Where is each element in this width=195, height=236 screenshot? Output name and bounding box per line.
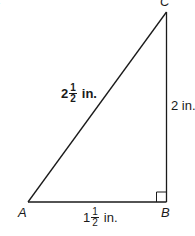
vertical-side-length-label: 2 in.: [171, 99, 195, 112]
horizontal-fraction: 1 2: [91, 207, 99, 228]
right-triangle-figure: [0, 0, 195, 236]
hypotenuse-unit: in.: [82, 87, 97, 100]
vertex-label-c: C: [160, 0, 169, 8]
vertex-label-a: A: [18, 206, 27, 219]
hypotenuse-fraction: 1 2: [69, 83, 77, 104]
hypotenuse-whole: 2: [61, 87, 68, 100]
side-ac-hypotenuse: [28, 12, 167, 202]
hypotenuse-length-label: 2 1 2 in.: [61, 83, 97, 104]
vertex-label-b: B: [161, 206, 170, 219]
horizontal-whole: 1: [83, 211, 90, 224]
right-angle-marker: [157, 192, 167, 202]
horizontal-denominator: 2: [91, 218, 99, 228]
hypotenuse-denominator: 2: [69, 94, 77, 104]
horizontal-unit: in.: [104, 211, 118, 224]
horizontal-side-length-label: 1 1 2 in.: [83, 207, 118, 228]
